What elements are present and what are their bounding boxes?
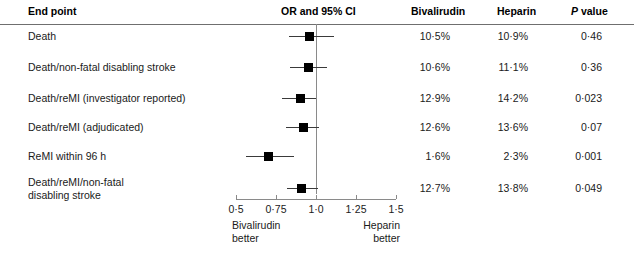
cell-heparin: 11·1% (472, 61, 528, 73)
axis-tick (356, 195, 357, 199)
odds-ratio-marker (304, 63, 313, 72)
column-header-heparin: Heparin (497, 5, 536, 17)
cell-p-value: 0·36 (550, 61, 602, 73)
cell-heparin: 14·2% (472, 92, 528, 104)
axis-tick-label: 1·0 (296, 203, 336, 215)
axis-baseline (236, 199, 396, 200)
p-value-italic-p: P (571, 5, 578, 17)
cell-heparin: 13·8% (472, 182, 528, 194)
p-value-word: value (578, 5, 608, 17)
column-header-endpoint: End point (28, 5, 76, 17)
cell-heparin: 2·3% (472, 150, 528, 162)
odds-ratio-marker (297, 184, 306, 193)
column-header-bivalirudin: Bivalirudin (411, 5, 465, 17)
axis-tick-label: 1·25 (336, 203, 376, 215)
null-reference-line (316, 24, 317, 194)
row-label: ReMI within 96 h (28, 150, 106, 163)
axis-tick (396, 195, 397, 199)
row-label: Death/reMI (investigator reported) (28, 92, 186, 105)
axis-tick-label: 0·5 (216, 203, 256, 215)
axis-tick (276, 195, 277, 199)
row-label: Death/reMI/non-fatal disabling stroke (28, 176, 124, 201)
axis-tick-label: 1·5 (376, 203, 416, 215)
odds-ratio-marker (264, 152, 273, 161)
axis-tick (236, 195, 237, 199)
row-label: Death (28, 30, 56, 43)
cell-p-value: 0·46 (550, 30, 602, 42)
column-header-or-ci: OR and 95% CI (281, 5, 356, 17)
cell-p-value: 0·001 (550, 150, 602, 162)
odds-ratio-marker (296, 94, 305, 103)
odds-ratio-marker (305, 32, 314, 41)
cell-p-value: 0·07 (550, 121, 602, 133)
axis-tick (316, 195, 317, 199)
cell-p-value: 0·049 (550, 182, 602, 194)
row-label: Death/reMI (adjudicated) (28, 121, 144, 134)
row-label: Death/non-fatal disabling stroke (28, 61, 176, 74)
axis-note-bivalirudin-better: Bivalirudin better (232, 219, 280, 244)
axis-note-heparin-better: Heparin better (316, 219, 400, 244)
column-header-p-value: P value (571, 5, 608, 17)
cell-heparin: 13·6% (472, 121, 528, 133)
axis-tick-label: 0·75 (256, 203, 296, 215)
odds-ratio-marker (299, 123, 308, 132)
forest-plot-plane (236, 24, 396, 194)
cell-heparin: 10·9% (472, 30, 528, 42)
cell-p-value: 0·023 (550, 92, 602, 104)
forest-plot-figure: End point OR and 95% CI Bivalirudin Hepa… (0, 0, 634, 257)
